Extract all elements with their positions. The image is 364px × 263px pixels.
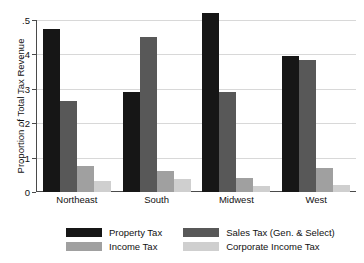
- y-tick-label: .5: [0, 15, 30, 26]
- bar-group: [37, 20, 117, 192]
- bar[interactable]: [60, 101, 77, 192]
- y-tick-label: 0: [0, 187, 30, 198]
- legend-swatch: [66, 242, 102, 251]
- x-tick-label: Midwest: [197, 194, 277, 205]
- bar[interactable]: [282, 56, 299, 192]
- bar[interactable]: [202, 13, 219, 192]
- legend-label: Income Tax: [109, 241, 176, 252]
- legend-label: Property Tax: [109, 227, 176, 238]
- bar[interactable]: [123, 92, 140, 192]
- bar-group: [276, 20, 356, 192]
- y-tick-label: .4: [0, 49, 30, 60]
- bar[interactable]: [77, 166, 94, 192]
- y-tick-mark: [32, 192, 36, 193]
- legend-label: Sales Tax (Gen. & Select): [226, 227, 349, 238]
- bar[interactable]: [94, 181, 111, 192]
- bar[interactable]: [316, 168, 333, 192]
- bar-groups: [37, 20, 356, 192]
- gridline: [37, 192, 356, 193]
- bar-group: [197, 20, 277, 192]
- chart-legend: Property TaxSales Tax (Gen. & Select)Inc…: [66, 227, 349, 252]
- legend-swatch: [66, 228, 102, 237]
- x-tick-label: South: [117, 194, 197, 205]
- x-tick-label: West: [276, 194, 356, 205]
- legend-swatch: [183, 228, 219, 237]
- y-axis-ticks: 0.1.2.3.4.5: [0, 0, 34, 263]
- bar[interactable]: [174, 179, 191, 192]
- bar[interactable]: [299, 60, 316, 192]
- x-axis-labels: NortheastSouthMidwestWest: [37, 194, 356, 205]
- bar[interactable]: [219, 92, 236, 192]
- bar[interactable]: [43, 29, 60, 192]
- bar[interactable]: [236, 178, 253, 192]
- x-tick-label: Northeast: [37, 194, 117, 205]
- bar[interactable]: [140, 37, 157, 192]
- bar-group: [117, 20, 197, 192]
- bar-chart: Proportion of Total Tax Revenue 0.1.2.3.…: [0, 0, 364, 263]
- y-tick-label: .1: [0, 153, 30, 164]
- y-tick-label: .2: [0, 118, 30, 129]
- bar[interactable]: [333, 185, 350, 192]
- bar[interactable]: [157, 171, 174, 192]
- y-tick-label: .3: [0, 84, 30, 95]
- legend-swatch: [183, 242, 219, 251]
- bar[interactable]: [253, 186, 270, 192]
- legend-label: Corporate Income Tax: [226, 241, 349, 252]
